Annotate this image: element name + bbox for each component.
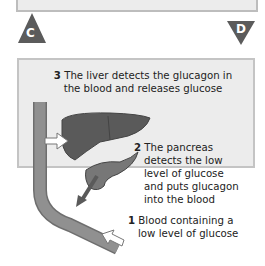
- step-2-number: 2: [134, 142, 141, 153]
- step-1-line: Blood containing a: [138, 215, 233, 226]
- step-3-text-line1: The liver detects the glucagon in: [64, 70, 232, 81]
- step-3-number: 3: [54, 70, 61, 81]
- step-2-line: detects the low: [134, 155, 223, 166]
- step-3-caption: 3 The liver detects the glucagon in the …: [48, 69, 238, 95]
- step-2-line: into the blood: [134, 194, 215, 205]
- step-2-caption: 2 The pancreas detects the low level of …: [134, 141, 239, 206]
- step-2-line: and puts glucagon: [134, 181, 239, 192]
- step-2-line: The pancreas: [144, 142, 213, 153]
- step-1-line: low level of glucose: [128, 228, 238, 239]
- step-2-line: level of glucose: [134, 168, 224, 179]
- step-1-caption: 1 Blood containing a low level of glucos…: [128, 214, 238, 240]
- step-3-text-line2: the blood and releases glucose: [64, 83, 223, 94]
- step-1-number: 1: [128, 215, 135, 226]
